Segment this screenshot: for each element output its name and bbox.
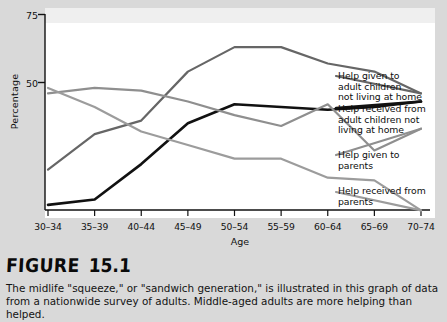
figure-caption-area: FIGURE15.1 The midlife "squeeze," or "sa… [0, 250, 447, 303]
legend-label-line-1: Help given to [338, 150, 447, 161]
legend-item-help-given-adult-children: Help given to adult children not living … [338, 71, 447, 103]
x-axis-tick-label: 50–54 [212, 221, 258, 232]
legend-item-help-received-parents: Help received from parents [338, 186, 447, 207]
x-axis-tick-label: 30–34 [25, 221, 71, 232]
x-axis-tick-label: 40–44 [118, 221, 164, 232]
chart: 75 50 Percentage 30–3435–3940–4445–4950–… [0, 0, 447, 250]
legend-label-line-3: not living at home [338, 92, 447, 103]
legend-item-help-received-adult-children: Help received from adult children not li… [338, 104, 447, 136]
legend-label-line-3: living at home [338, 125, 447, 136]
x-axis-tick-label: 35–39 [72, 221, 118, 232]
x-axis-tick-label: 65–69 [351, 221, 397, 232]
legend-label-line-2: parents [338, 197, 447, 208]
figure-heading: FIGURE15.1 [5, 254, 131, 276]
figure-heading-number: 15.1 [88, 254, 131, 276]
legend-label-line-1: Help given to [338, 71, 447, 82]
x-axis-tick-label: 70–74 [398, 221, 444, 232]
figure-caption-text: The midlife "squeeze," or "sandwich gene… [6, 282, 443, 322]
legend-label-line-1: Help received from [338, 186, 447, 197]
x-axis-tick-label: 45–49 [165, 221, 211, 232]
legend-label-line-1: Help received from [338, 104, 447, 115]
legend-label-line-2: parents [338, 161, 447, 172]
figure-heading-word: FIGURE [5, 254, 80, 276]
legend-item-help-given-parents: Help given to parents [338, 150, 447, 171]
x-tick-marks-group [48, 210, 421, 216]
x-axis-tick-label: 55–59 [258, 221, 304, 232]
x-axis-title: Age [45, 236, 435, 247]
x-axis-tick-label: 60–64 [305, 221, 351, 232]
caption-line-2: from a nationwide survey of adults. Midd… [6, 295, 443, 321]
caption-line-1: The midlife "squeeze," or "sandwich gene… [6, 282, 443, 295]
